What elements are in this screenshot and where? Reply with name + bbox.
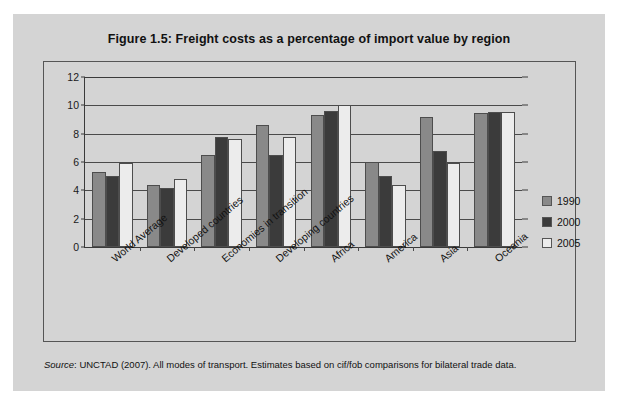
bar (324, 111, 338, 247)
bar-group (474, 77, 515, 247)
bar (488, 112, 502, 247)
legend-swatch-2000 (542, 217, 552, 227)
source-text: : UNCTAD (2007). All modes of transport.… (74, 359, 516, 370)
legend-swatch-1990 (542, 196, 552, 206)
bar (447, 163, 461, 247)
x-axis-separator (249, 247, 250, 251)
bar (420, 117, 434, 247)
x-axis-separator (413, 247, 414, 251)
y-tick-mark-right-10 (522, 105, 528, 106)
x-axis-separator (467, 247, 468, 251)
bar (365, 162, 379, 247)
y-tick-mark-right-8 (522, 133, 528, 134)
bar-group (92, 77, 133, 247)
y-tick-mark-right-0 (522, 247, 528, 248)
y-tick-label-8: 8 (73, 128, 79, 140)
bar (92, 172, 106, 247)
y-tick-label-6: 6 (73, 156, 79, 168)
bar (474, 113, 488, 247)
x-axis-separator (304, 247, 305, 251)
y-tick-mark-right-4 (522, 190, 528, 191)
source-label: Source (44, 359, 74, 370)
y-tick-mark-right-2 (522, 218, 528, 219)
source-note: Source: UNCTAD (2007). All modes of tran… (44, 359, 516, 370)
legend-label-2000: 2000 (557, 216, 580, 228)
y-tick-label-10: 10 (67, 99, 79, 111)
legend-item: 2000 (542, 211, 602, 232)
bar (433, 151, 447, 247)
y-tick-mark-right-12 (522, 77, 528, 78)
bar (106, 176, 120, 247)
figure-panel: Figure 1.5: Freight costs as a percentag… (13, 14, 605, 391)
chart-frame: 024681012 World AverageDeveloped countri… (43, 61, 576, 342)
y-tick-mark-right-6 (522, 162, 528, 163)
y-tick-label-4: 4 (73, 184, 79, 196)
bar (338, 105, 352, 247)
x-axis-separator (140, 247, 141, 251)
x-axis-separator (358, 247, 359, 251)
bar (379, 176, 393, 247)
legend-item: 2005 (542, 232, 602, 253)
x-axis-separator (194, 247, 195, 251)
legend-item: 1990 (542, 190, 602, 211)
bar (119, 163, 133, 247)
y-tick-label-0: 0 (73, 241, 79, 253)
figure-title: Figure 1.5: Freight costs as a percentag… (13, 32, 605, 46)
chart-legend: 199020002005 (542, 190, 602, 253)
legend-swatch-2005 (542, 238, 552, 248)
bar (269, 155, 283, 247)
y-tick-label-12: 12 (67, 71, 79, 83)
bar (501, 112, 515, 247)
bar-group (420, 77, 461, 247)
legend-label-2005: 2005 (557, 237, 580, 249)
bar-group (365, 77, 406, 247)
y-tick-label-2: 2 (73, 213, 79, 225)
bar (215, 137, 229, 247)
legend-label-1990: 1990 (557, 195, 580, 207)
bar (228, 139, 242, 247)
